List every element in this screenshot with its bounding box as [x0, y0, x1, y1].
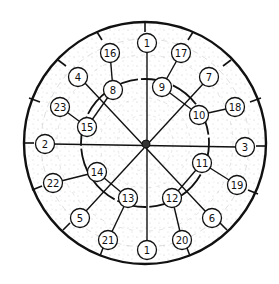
stone-label: 15	[81, 122, 94, 133]
stone-8: 8	[104, 81, 123, 100]
stone-label: 4	[75, 72, 81, 83]
stone-label: 22	[47, 178, 60, 189]
stone-7: 7	[200, 68, 219, 87]
stone-14: 14	[88, 163, 107, 182]
stone-22: 22	[44, 174, 63, 193]
stone-16: 16	[101, 44, 120, 63]
stone-label: 9	[159, 82, 165, 93]
stone-21: 21	[99, 231, 118, 250]
center-hub	[142, 140, 150, 148]
stone-label: 19	[231, 180, 244, 191]
stone-10: 10	[190, 106, 209, 125]
stone-6: 6	[203, 209, 222, 228]
stone-label: 14	[91, 167, 104, 178]
stone-label: 1	[144, 245, 150, 256]
stone-label: 18	[229, 102, 242, 113]
stone-23: 23	[51, 98, 70, 117]
stone-9: 9	[153, 78, 172, 97]
stone-label: 1	[144, 38, 150, 49]
stone-3: 3	[236, 138, 255, 157]
stone-11: 11	[193, 154, 212, 173]
stone-label: 20	[176, 235, 189, 246]
stone-13: 13	[119, 189, 138, 208]
stone-label: 11	[196, 158, 209, 169]
stone-1-bottom: 1	[138, 241, 157, 260]
stone-label: 6	[209, 213, 215, 224]
stone-label: 7	[206, 72, 212, 83]
stone-20: 20	[173, 231, 192, 250]
stone-19: 19	[228, 176, 247, 195]
stone-4: 4	[69, 68, 88, 87]
stone-label: 23	[54, 102, 67, 113]
stone-label: 10	[193, 110, 206, 121]
stone-12: 12	[163, 189, 182, 208]
stone-1-top: 1	[138, 34, 157, 53]
stone-label: 5	[77, 213, 83, 224]
stone-label: 16	[104, 48, 117, 59]
stone-label: 13	[122, 193, 135, 204]
stone-label: 21	[102, 235, 115, 246]
stone-17: 17	[172, 44, 191, 63]
stone-label: 2	[42, 139, 48, 150]
stone-circle-diagram: 1 16 17 4 8 9 7 23 15 10 18 2 3 14 11 22…	[0, 0, 279, 284]
stone-18: 18	[226, 98, 245, 117]
stone-15: 15	[78, 118, 97, 137]
stone-label: 8	[110, 85, 116, 96]
stone-label: 17	[175, 48, 188, 59]
stone-5: 5	[71, 209, 90, 228]
stone-2: 2	[36, 135, 55, 154]
stone-label: 12	[166, 193, 179, 204]
stone-label: 3	[242, 142, 248, 153]
